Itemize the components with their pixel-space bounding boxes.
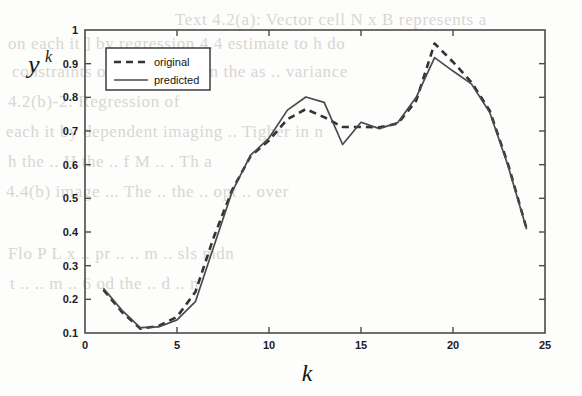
y-axis-tick-label: 0.3 (63, 260, 78, 272)
x-axis-tick-label: 20 (447, 339, 459, 351)
y-axis-tick-label: 0.4 (63, 226, 79, 238)
series-line-predicted (103, 58, 526, 328)
y-axis-tick-label: 0.1 (63, 327, 78, 339)
legend-label-predicted: predicted (154, 74, 199, 86)
y-axis-tick-label: 0.6 (63, 159, 78, 171)
y-axis-label: y (25, 50, 40, 79)
x-axis-tick-label: 25 (539, 339, 551, 351)
figure-canvas: Text 4.2(a): Vector cell N x B represent… (0, 0, 582, 396)
y-axis-tick-label: 0.5 (63, 192, 78, 204)
legend-label-original: original (154, 56, 189, 68)
y-axis-tick-label: 0.7 (63, 125, 78, 137)
x-axis-label: k (302, 360, 313, 386)
x-axis-tick-label: 10 (263, 339, 275, 351)
x-axis-tick-label: 5 (174, 339, 180, 351)
y-axis-label-superscript: k (45, 48, 53, 65)
x-axis-tick-label: 0 (82, 339, 88, 351)
y-axis-tick-label: 0.2 (63, 293, 78, 305)
y-axis-tick-label: 0.9 (63, 58, 78, 70)
chart-plot: 05101520250.10.20.30.40.50.60.70.80.91ky… (0, 0, 582, 396)
y-axis-tick-label: 0.8 (63, 91, 78, 103)
x-axis-tick-label: 15 (355, 339, 367, 351)
y-axis-tick-label: 1 (72, 24, 78, 36)
